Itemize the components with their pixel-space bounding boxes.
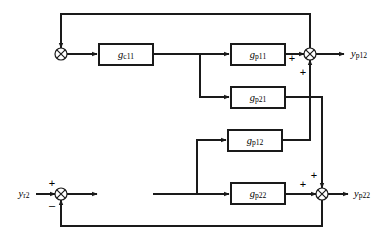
sign-sum2-plus-left: + [289,53,295,64]
sign-sum4-plus-left: + [300,179,306,190]
sign-sum3-minus: – [49,200,55,211]
summing-junction-sum2 [304,48,316,60]
block-label-gp21: gp21 [250,93,267,104]
wire-layer [0,0,386,240]
signal-label-yp12: yp12 [351,49,367,60]
summing-junction-sum1 [55,48,67,60]
signal-label-yp22: yp22 [354,189,370,200]
sign-sum3-plus: + [49,178,55,189]
summing-junction-sum3 [55,188,67,200]
wire-feedback-top [61,14,310,48]
block-label-gc11: gc11 [118,50,134,61]
block-label-gp11: gp11 [250,50,266,61]
wire-branch-to-gp12 [197,140,226,194]
sign-sum4-plus-above: + [311,170,317,181]
wire-branch-to-gp21 [200,54,229,97]
summing-junction-sum4 [316,188,328,200]
block-label-gp12: gp12 [247,136,264,147]
block-label-gp22: gp22 [250,189,267,200]
signal-label-yr2: yr2 [19,189,30,200]
block-diagram-canvas: gc11 gp11 gp21 gp12 gp22 yr2 yp12 yp22 +… [0,0,386,240]
sign-sum2-plus-below: + [300,67,306,78]
